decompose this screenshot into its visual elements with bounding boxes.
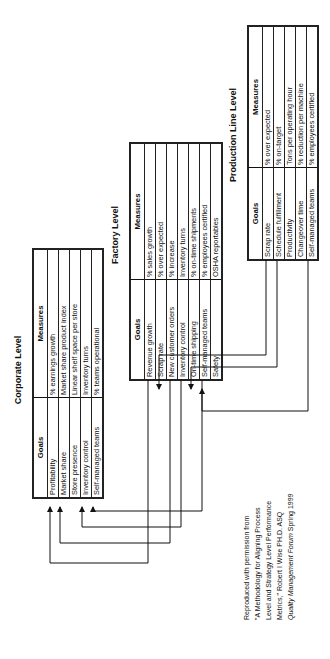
link-revenue-to-profitability [50,380,148,563]
citation-line: Reproduced with permission from [241,494,252,620]
link-orders-to-market-share [60,380,170,543]
citation-line: Level and Strategy Level Performance [263,494,274,620]
link-scrap-to-scrap [159,260,266,389]
citation-line: "A Methodology for Aligning Process [252,494,263,620]
citation-text: Reproduced with permission from "A Metho… [241,494,296,620]
link-inventory-to-inventory [82,380,181,527]
link-teams-to-teams-factory [202,260,308,411]
citation-line: Quality Management Forum Spring 1999 [285,494,296,620]
issue-date: Spring 1999 [287,494,294,534]
journal-name: Quality Management Forum [287,533,294,620]
link-schedule-to-shipping [191,260,277,389]
diagram-stage: Corporate Level Factory Level Production… [0,0,330,659]
citation-line: Metrics," Robert I Wise PH.D. ASQ [274,494,285,620]
